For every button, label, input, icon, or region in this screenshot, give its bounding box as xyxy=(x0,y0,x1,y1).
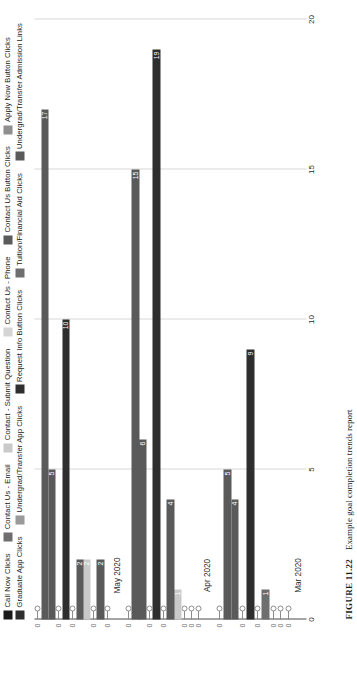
bar-row: 0 xyxy=(34,19,42,619)
rotated-figure-wrapper: Call Now ClicksContact Us - EmailContact… xyxy=(0,0,357,677)
zero-marker-icon xyxy=(104,605,110,611)
bar-value-label: 10 xyxy=(62,321,69,329)
bar-row: 0 xyxy=(180,19,188,619)
value-axis-ticks: 05101520 xyxy=(306,19,320,619)
bar-value-label: 0 xyxy=(254,623,261,627)
value-axis-tick-label: 0 xyxy=(306,617,315,621)
legend-item-label: Contact Us Button Clicks xyxy=(2,146,12,232)
zero-marker-icon xyxy=(239,605,245,611)
value-axis-tick-label: 10 xyxy=(306,315,315,324)
legend-item-label: Contact Us - Email xyxy=(2,464,12,529)
legend-item: Undergrad/Transfer App Clicks xyxy=(14,405,24,523)
bar-group: 0001401906150Apr 2020 xyxy=(125,19,216,619)
zero-marker-icon xyxy=(195,605,201,611)
figure-caption-text: Example goal completion trends report xyxy=(343,409,353,549)
bar-row: 0 xyxy=(103,19,111,619)
bar-row: 0 xyxy=(124,19,132,619)
legend-item: Request Info Button Clicks xyxy=(14,289,24,393)
bar: 4 xyxy=(231,499,239,619)
legend-swatch-icon xyxy=(3,532,12,541)
bar-value-label: 9 xyxy=(246,351,253,355)
zero-marker-icon xyxy=(181,605,187,611)
legend-swatch-icon xyxy=(15,151,24,160)
bar: 10 xyxy=(62,319,70,619)
bar-row: 10 xyxy=(62,19,70,619)
bar-row: 6 xyxy=(138,19,146,619)
legend-swatch-icon xyxy=(3,235,12,244)
zero-marker-icon xyxy=(254,605,260,611)
zero-marker-icon xyxy=(55,605,61,611)
bar-value-label: 0 xyxy=(146,623,153,627)
legend-swatch-icon xyxy=(15,610,24,619)
figure-number: FIGURE 11.22 xyxy=(343,558,353,619)
legend-item: Tuition/Financial Aid Clicks xyxy=(14,172,24,277)
bar-value-label: 2 xyxy=(83,561,90,565)
zero-marker-icon xyxy=(125,605,131,611)
legend-swatch-icon xyxy=(3,125,12,134)
bar: 6 xyxy=(138,439,146,619)
bar-row: 0 xyxy=(194,19,202,619)
legend-item-label: Request Info Button Clicks xyxy=(14,289,24,381)
bar-value-label: 0 xyxy=(159,623,166,627)
bar-value-label: 0 xyxy=(180,623,187,627)
bar: 5 xyxy=(223,469,231,619)
zero-marker-icon xyxy=(34,605,40,611)
value-axis-tick-label: 5 xyxy=(306,467,315,471)
bar: 9 xyxy=(246,349,254,619)
bar-value-label: 2 xyxy=(97,561,104,565)
bar-row: 2 xyxy=(82,19,90,619)
bar-value-label: 0 xyxy=(69,623,76,627)
bar-value-label: 0 xyxy=(34,623,41,627)
bar-value-label: 0 xyxy=(277,623,284,627)
category-axis-label: May 2020 xyxy=(112,557,121,593)
bar-value-label: 6 xyxy=(139,441,146,445)
bar-row: 9 xyxy=(246,19,254,619)
bar: 1 xyxy=(261,589,269,619)
chart-legend: Call Now ClicksContact Us - EmailContact… xyxy=(2,19,24,619)
bar-row: 0 xyxy=(277,19,285,619)
bar-value-label: 0 xyxy=(194,623,201,627)
bar-row: 2 xyxy=(76,19,84,619)
chart-plot-area: 051015200001090450Mar 20200001401906150A… xyxy=(34,19,306,619)
legend-item: Contact Us - Email xyxy=(2,464,12,541)
legend-item-label: Undergrad/Transfer App Clicks xyxy=(14,405,24,511)
legend-swatch-icon xyxy=(15,268,24,277)
value-axis-tick-label: 20 xyxy=(306,15,315,24)
bar-value-label: 0 xyxy=(125,623,132,627)
bar-value-label: 1 xyxy=(262,591,269,595)
legend-swatch-icon xyxy=(3,610,12,619)
bar-value-label: 4 xyxy=(231,501,238,505)
legend-item-label: Contact - Submit Question xyxy=(2,348,12,440)
bar-value-label: 0 xyxy=(269,623,276,627)
bar-value-label: 19 xyxy=(153,51,160,59)
bar-value-label: 0 xyxy=(104,623,111,627)
legend-swatch-icon xyxy=(15,515,24,524)
bar: 2 xyxy=(82,559,90,619)
bar: 5 xyxy=(48,469,56,619)
bar-value-label: 0 xyxy=(216,623,223,627)
bar-value-label: 0 xyxy=(285,623,292,627)
bar-row: 0 xyxy=(89,19,97,619)
zero-marker-icon xyxy=(146,605,152,611)
figure-page: Call Now ClicksContact Us - EmailContact… xyxy=(0,0,357,677)
bar-row: 1 xyxy=(173,19,181,619)
legend-item-label: Undergrad/Transfer Admission Links xyxy=(14,23,24,149)
bar-value-label: 0 xyxy=(90,623,97,627)
legend-swatch-icon xyxy=(3,443,12,452)
bar-row: 0 xyxy=(69,19,77,619)
zero-marker-icon xyxy=(277,605,283,611)
bar-row: 19 xyxy=(152,19,160,619)
legend-item: Contact Us - Phone xyxy=(2,256,12,336)
goal-completion-trends-figure: Call Now ClicksContact Us - EmailContact… xyxy=(0,0,357,677)
zero-marker-icon xyxy=(90,605,96,611)
bar-row: 0 xyxy=(215,19,223,619)
bar: 2 xyxy=(96,559,104,619)
legend-item: Undergrad/Transfer Admission Links xyxy=(14,23,24,161)
legend-swatch-icon xyxy=(15,384,24,393)
zero-marker-icon xyxy=(69,605,75,611)
legend-item: Call Now Clicks xyxy=(2,553,12,619)
bar-value-label: 17 xyxy=(41,111,48,119)
bar: 1 xyxy=(173,589,181,619)
legend-item-label: Call Now Clicks xyxy=(2,553,12,607)
bar-row: 4 xyxy=(166,19,174,619)
